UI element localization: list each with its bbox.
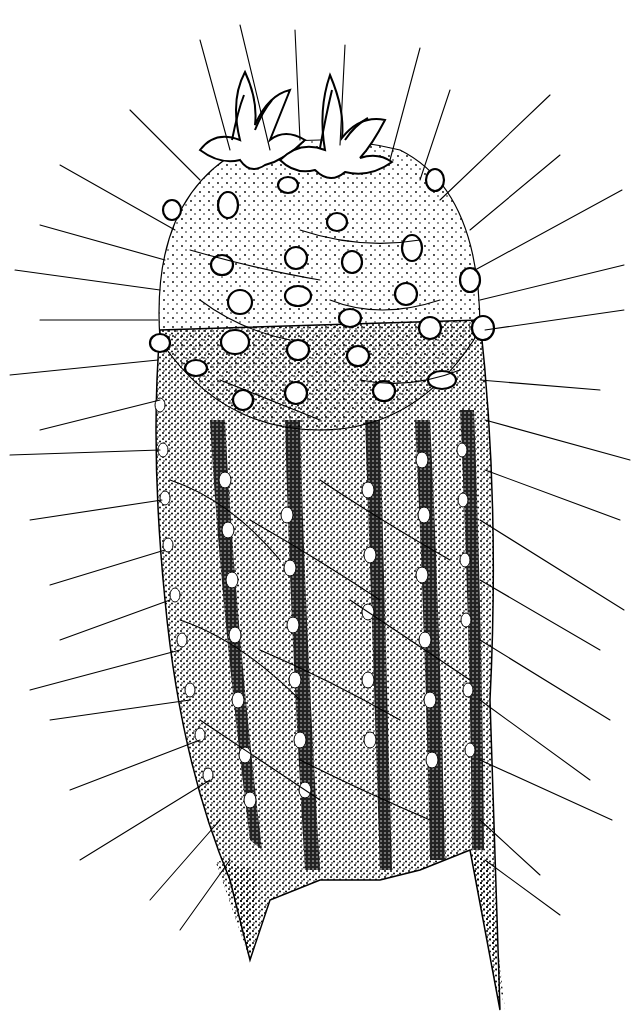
flower-buds (200, 72, 392, 178)
cactus-illustration (0, 0, 634, 1028)
